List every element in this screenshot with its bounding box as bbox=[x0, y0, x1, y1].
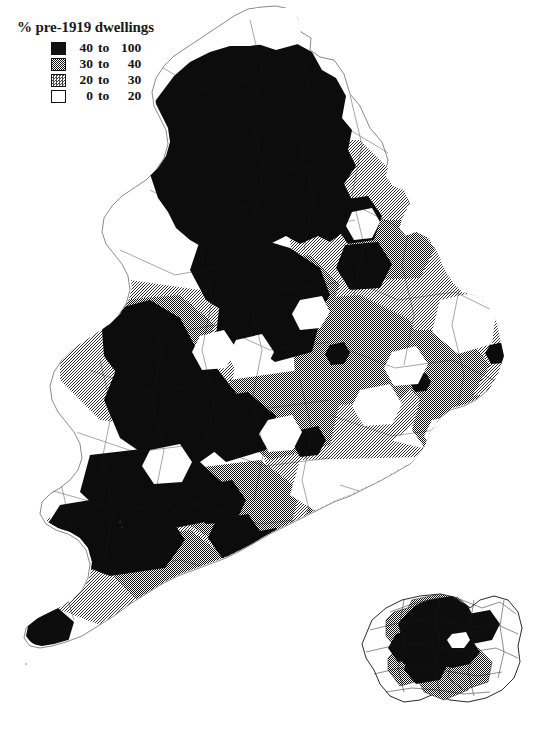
map-canvas bbox=[0, 0, 546, 735]
legend-entry-label: 30 to 40 bbox=[73, 56, 141, 72]
scan-speck bbox=[25, 663, 27, 665]
legend-swatch-icon bbox=[51, 90, 66, 103]
map-region-patch bbox=[412, 395, 505, 462]
map-region-patch bbox=[290, 455, 510, 520]
legend-range-low: 30 bbox=[73, 56, 93, 72]
legend-range-connector: to bbox=[93, 88, 114, 104]
legend-entry: 0 to 20 bbox=[51, 88, 154, 104]
legend-entry: 20 to 30 bbox=[51, 72, 154, 88]
legend-range-high: 100 bbox=[114, 40, 141, 56]
legend-range-low: 40 bbox=[73, 40, 93, 56]
legend-swatch-icon bbox=[51, 58, 66, 71]
legend-range-high: 30 bbox=[114, 72, 141, 88]
legend-entry-label: 20 to 30 bbox=[73, 72, 141, 88]
map-inset-greater-london bbox=[362, 594, 522, 702]
legend-title: % pre-1919 dwellings bbox=[17, 18, 154, 36]
legend-range-low: 0 bbox=[73, 88, 93, 104]
scan-speck bbox=[121, 526, 123, 528]
map-region-patch bbox=[394, 541, 434, 574]
legend-entry-label: 40 to 100 bbox=[73, 40, 141, 56]
legend-range-connector: to bbox=[93, 72, 114, 88]
scan-speck bbox=[118, 520, 121, 523]
legend-entry: 40 to 100 bbox=[51, 40, 154, 56]
legend-range-high: 40 bbox=[114, 56, 141, 72]
map-region-patch bbox=[236, 545, 400, 612]
legend-range-low: 20 bbox=[73, 72, 93, 88]
map-region-patch bbox=[312, 554, 366, 596]
map-region-patch bbox=[244, 8, 302, 50]
figure-choropleth-map: % pre-1919 dwellings 40 to 100 30 to 40 bbox=[0, 0, 546, 735]
map-legend: % pre-1919 dwellings 40 to 100 30 to 40 bbox=[17, 18, 154, 104]
legend-entry-label: 0 to 20 bbox=[73, 88, 141, 104]
map-region-patch bbox=[446, 526, 488, 559]
legend-range-high: 20 bbox=[114, 88, 141, 104]
map-region-patch bbox=[144, 40, 356, 248]
legend-swatch-icon bbox=[51, 74, 66, 87]
legend-range-connector: to bbox=[93, 40, 114, 56]
legend-swatch-icon bbox=[51, 42, 66, 55]
legend-entries: 40 to 100 30 to 40 20 to 30 bbox=[51, 40, 154, 104]
legend-entry: 30 to 40 bbox=[51, 56, 154, 72]
legend-range-connector: to bbox=[93, 56, 114, 72]
